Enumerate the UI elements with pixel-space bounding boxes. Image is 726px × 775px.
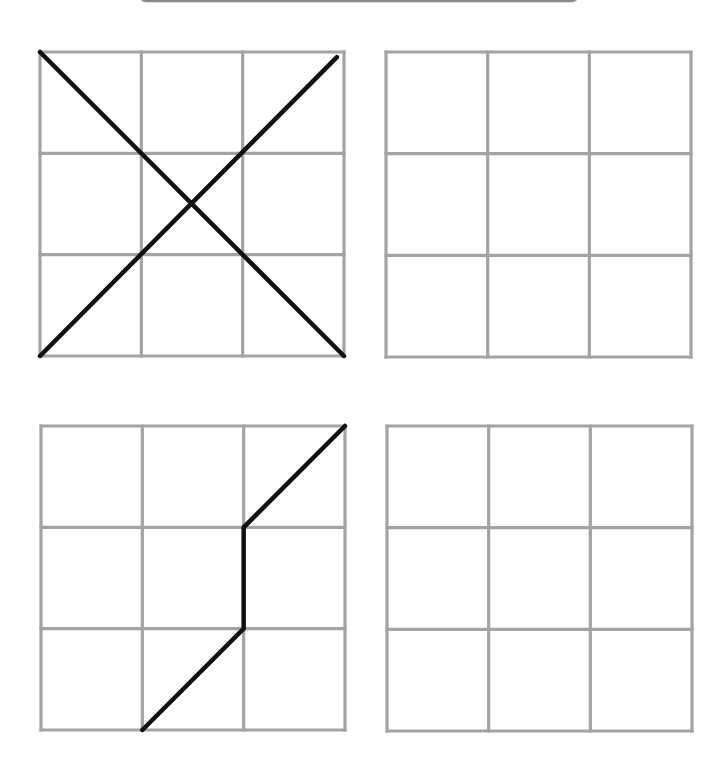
grid-bottom-left-example — [41, 426, 345, 730]
grid-bottom-right-blank — [387, 426, 692, 731]
grid-svg — [41, 426, 345, 730]
grid-svg — [40, 52, 344, 356]
grid-top-right-blank — [386, 52, 691, 357]
grid-svg — [387, 426, 692, 731]
drawn-path-line — [40, 57, 337, 356]
top-bar-edge — [140, 0, 578, 2]
grid-svg — [386, 52, 691, 357]
grid-top-left-example — [40, 52, 344, 356]
